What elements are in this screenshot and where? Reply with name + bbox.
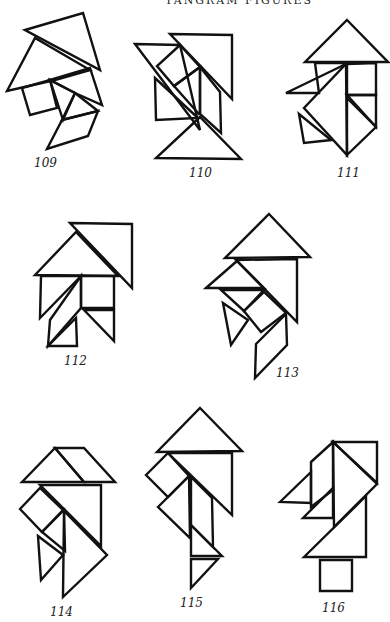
figure-label-109: 109 [34, 156, 57, 170]
figure-label-116: 116 [322, 601, 345, 615]
figure-109 [7, 13, 102, 149]
figure-110 [135, 34, 241, 159]
figure-116 [280, 442, 377, 591]
figure-label-111: 111 [337, 166, 360, 180]
figure-label-110: 110 [189, 166, 212, 180]
figure-114 [20, 448, 115, 597]
figure-113 [206, 214, 310, 378]
figure-label-113: 113 [276, 366, 299, 380]
figure-label-115: 115 [180, 596, 203, 610]
tangram-figures [0, 0, 390, 622]
figure-112 [35, 223, 132, 346]
figure-label-112: 112 [64, 354, 87, 368]
figure-115 [146, 408, 242, 588]
figure-111 [286, 20, 388, 155]
figure-label-114: 114 [50, 605, 73, 619]
